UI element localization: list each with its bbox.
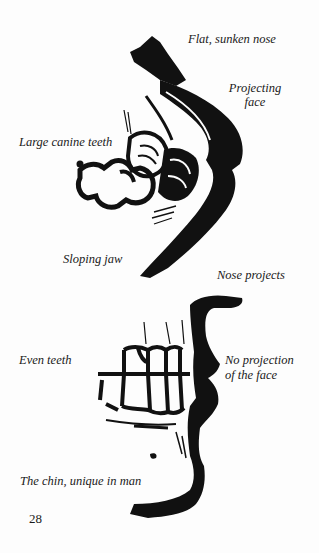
label-sloping-jaw: Sloping jaw <box>63 252 122 266</box>
label-chin-unique-in-man: The chin, unique in man <box>20 474 141 488</box>
label-no-projection-line2: of the face <box>225 368 277 382</box>
label-nose-projects: Nose projects <box>217 268 285 282</box>
label-even-teeth: Even teeth <box>19 353 71 367</box>
label-large-canine-teeth: Large canine teeth <box>19 135 112 149</box>
label-projecting-face-line1: Projecting <box>222 81 288 95</box>
page-number: 28 <box>29 511 42 527</box>
book-page: Flat, sunken nose Projecting face Large … <box>0 0 319 553</box>
label-no-projection-line1: No projection <box>225 353 294 367</box>
label-projecting-face-line2: face <box>222 95 288 109</box>
label-flat-sunken-nose: Flat, sunken nose <box>188 32 276 46</box>
